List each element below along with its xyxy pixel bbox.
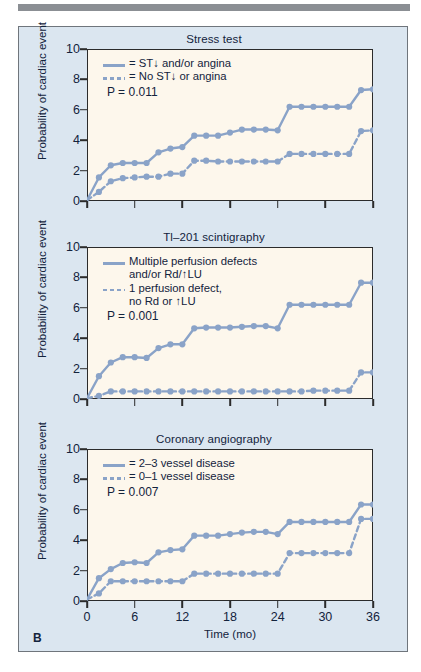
y-axis-title: Probability of cardiac event xyxy=(36,219,48,359)
y-tick-label: 2 xyxy=(73,362,80,376)
data-point-marker xyxy=(322,519,328,525)
series-line xyxy=(87,283,373,399)
data-point-marker xyxy=(96,575,102,581)
data-point-marker xyxy=(370,86,373,92)
data-point-marker xyxy=(251,126,257,132)
figure-root: Stress test Probability of cardiac event… xyxy=(0,0,421,672)
x-tick-mark xyxy=(325,201,327,208)
data-point-marker xyxy=(120,160,126,166)
data-point-marker xyxy=(298,302,304,308)
x-tick-mark xyxy=(182,201,184,208)
data-point-marker xyxy=(298,519,304,525)
data-point-marker xyxy=(275,531,281,537)
data-point-marker xyxy=(215,571,221,577)
data-point-marker xyxy=(286,151,292,157)
x-tick-mark xyxy=(134,201,136,208)
data-point-marker xyxy=(120,175,126,181)
data-point-marker xyxy=(143,355,149,361)
x-tick-mark xyxy=(325,601,327,608)
data-point-marker xyxy=(275,158,281,164)
data-point-marker xyxy=(358,128,364,134)
data-point-marker xyxy=(227,571,233,577)
data-point-marker xyxy=(239,126,245,132)
x-axis-title: Time (mo) xyxy=(87,628,373,640)
y-tick-label: 2 xyxy=(73,164,80,178)
data-point-marker xyxy=(251,529,257,535)
data-point-marker xyxy=(358,369,364,375)
data-point-marker xyxy=(358,501,364,507)
series-line xyxy=(87,130,373,200)
y-tick-label: 8 xyxy=(73,270,80,284)
data-point-marker xyxy=(96,590,102,596)
y-tick-mark xyxy=(80,448,87,450)
data-point-marker xyxy=(108,359,114,365)
data-point-marker xyxy=(96,189,102,195)
data-series-svg xyxy=(87,49,373,201)
data-point-marker xyxy=(334,550,340,556)
data-point-marker xyxy=(286,550,292,556)
y-tick-label: 0 xyxy=(73,594,80,608)
data-point-marker xyxy=(227,130,233,136)
y-tick-label: 2 xyxy=(73,564,80,578)
data-point-marker xyxy=(120,388,126,394)
data-point-marker xyxy=(358,516,364,522)
data-point-marker xyxy=(227,531,233,537)
x-tick-mark xyxy=(277,399,279,406)
y-tick-label: 0 xyxy=(73,392,80,406)
y-tick-label: 8 xyxy=(73,72,80,86)
data-point-marker xyxy=(155,578,161,584)
x-tick-label: 0 xyxy=(84,610,91,624)
data-point-marker xyxy=(96,393,102,399)
data-point-marker xyxy=(227,158,233,164)
plot-area: 0246810 Multiple perfusion defects and/o… xyxy=(87,247,373,399)
data-series-svg xyxy=(87,247,373,399)
data-point-marker xyxy=(120,354,126,360)
data-series-svg xyxy=(87,449,373,601)
data-point-marker xyxy=(310,151,316,157)
plot-area: 0246810 061218243036 Time (mo) = 2–3 ves… xyxy=(87,449,373,601)
data-point-marker xyxy=(322,151,328,157)
data-point-marker xyxy=(239,158,245,164)
y-tick-label: 8 xyxy=(73,472,80,486)
data-point-marker xyxy=(167,547,173,553)
data-point-marker xyxy=(167,145,173,151)
data-point-marker xyxy=(191,133,197,139)
chart-panel-tl201-scintigraphy: Tl–201 scintigraphy Probability of cardi… xyxy=(19,231,409,431)
data-point-marker xyxy=(203,571,209,577)
y-tick-mark xyxy=(80,79,87,81)
data-point-marker xyxy=(251,571,257,577)
data-point-marker xyxy=(263,126,269,132)
data-point-marker xyxy=(310,104,316,110)
data-point-marker xyxy=(215,533,221,539)
data-point-marker xyxy=(143,160,149,166)
data-point-marker xyxy=(310,302,316,308)
data-point-marker xyxy=(310,550,316,556)
data-point-marker xyxy=(263,529,269,535)
data-point-marker xyxy=(334,302,340,308)
y-tick-mark xyxy=(80,368,87,370)
data-point-marker xyxy=(263,323,269,329)
data-point-marker xyxy=(191,158,197,164)
data-point-marker xyxy=(108,178,114,184)
y-tick-label: 4 xyxy=(73,331,80,345)
data-point-marker xyxy=(96,373,102,379)
data-point-marker xyxy=(370,501,373,507)
data-point-marker xyxy=(370,280,373,286)
data-point-marker xyxy=(132,559,138,565)
x-tick-label: 6 xyxy=(131,610,138,624)
x-tick-label: 12 xyxy=(175,610,189,624)
data-point-marker xyxy=(275,388,281,394)
data-point-marker xyxy=(167,341,173,347)
x-tick-mark xyxy=(182,601,184,608)
data-point-marker xyxy=(298,550,304,556)
x-tick-mark xyxy=(134,399,136,406)
data-point-marker xyxy=(143,174,149,180)
data-point-marker xyxy=(203,133,209,139)
data-point-marker xyxy=(239,571,245,577)
data-point-marker xyxy=(322,302,328,308)
data-point-marker xyxy=(179,578,185,584)
y-tick-mark xyxy=(80,539,87,541)
data-point-marker xyxy=(108,388,114,394)
series-line xyxy=(87,89,373,200)
data-point-marker xyxy=(334,388,340,394)
